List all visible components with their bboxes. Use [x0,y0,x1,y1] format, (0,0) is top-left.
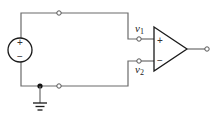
v1-label: v1 [135,22,144,36]
top-wire [21,13,57,38]
ground-icon [33,103,47,110]
source-minus-sign: − [17,51,23,62]
source-plus-sign: + [17,37,23,48]
opamp-icon: + − [154,27,187,71]
v2-label: v2 [135,63,144,77]
opamp-plus-sign: + [157,35,163,46]
opamp-minus-sign: − [157,55,163,66]
top-terminal [57,11,61,15]
top-wire-right [61,13,137,39]
output-terminal [205,47,209,51]
circuit-diagram: + − v1 v2 + − [0,0,216,121]
bottom-wire [21,62,57,86]
bottom-wire-right [61,61,137,86]
v1-terminal [137,37,141,41]
bottom-terminal [57,84,61,88]
voltage-source-icon: + − [8,37,32,62]
